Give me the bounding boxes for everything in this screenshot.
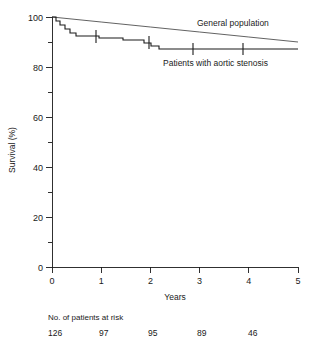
risk-table-title: No. of patients at risk bbox=[48, 313, 124, 322]
x-tick-label-5: 5 bbox=[295, 276, 300, 286]
risk-value-year-3: 89 bbox=[197, 328, 207, 338]
x-tick-label-4: 4 bbox=[246, 276, 251, 286]
x-axis-ticks bbox=[52, 267, 298, 273]
x-tick-label-3: 3 bbox=[197, 276, 202, 286]
risk-value-year-1: 97 bbox=[99, 328, 109, 338]
risk-value-year-2: 95 bbox=[148, 328, 158, 338]
y-tick-label-80: 80 bbox=[33, 63, 43, 73]
x-axis-title: Years bbox=[164, 292, 185, 302]
y-tick-label-60: 60 bbox=[33, 113, 43, 123]
y-tick-label-100: 100 bbox=[28, 13, 43, 23]
y-tick-label-40: 40 bbox=[33, 163, 43, 173]
x-tick-label-1: 1 bbox=[99, 276, 104, 286]
x-axis-tick-labels: 0 1 2 3 4 5 bbox=[49, 276, 300, 286]
y-axis-tick-labels: 100 80 60 40 20 0 bbox=[28, 13, 43, 273]
y-axis-minor-ticks bbox=[48, 42, 52, 242]
risk-value-year-4: 46 bbox=[248, 328, 258, 338]
y-tick-label-20: 20 bbox=[33, 213, 43, 223]
risk-value-year-0: 126 bbox=[48, 328, 62, 338]
x-tick-label-0: 0 bbox=[49, 276, 54, 286]
risk-table: No. of patients at risk 126 97 95 89 46 bbox=[48, 313, 258, 338]
x-tick-label-2: 2 bbox=[148, 276, 153, 286]
general-population-label: General population bbox=[197, 18, 269, 28]
survival-chart: 100 80 60 40 20 0 Survival (%) 0 1 2 3 4… bbox=[0, 0, 311, 344]
chart-axes bbox=[52, 17, 298, 267]
censor-marks bbox=[96, 30, 243, 55]
y-axis-title: Survival (%) bbox=[7, 127, 17, 173]
aortic-stenosis-label: Patients with aortic stenosis bbox=[163, 58, 268, 68]
y-tick-label-0: 0 bbox=[38, 263, 43, 273]
